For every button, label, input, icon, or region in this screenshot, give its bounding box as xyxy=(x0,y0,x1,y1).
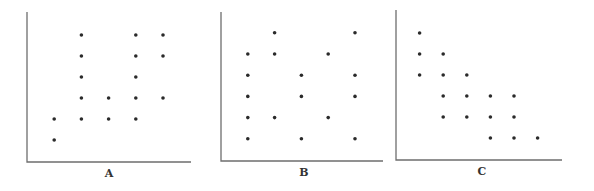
panel-c-label: C xyxy=(478,165,487,178)
panel-b-point-14 xyxy=(353,73,357,77)
panel-b-point-12 xyxy=(326,116,330,120)
panel-a: A xyxy=(27,12,191,180)
panel-a-point-10 xyxy=(134,54,138,58)
panel-a-label: A xyxy=(104,167,114,180)
panel-a-point-5 xyxy=(80,96,84,100)
panel-a-point-0 xyxy=(52,117,56,121)
panel-c-point-6 xyxy=(441,115,445,119)
panel-c-point-8 xyxy=(465,94,469,98)
panel-b-point-7 xyxy=(273,116,277,120)
panel-a-point-15 xyxy=(161,54,165,58)
panel-c-point-5 xyxy=(441,94,445,98)
panel-b-point-10 xyxy=(300,137,304,141)
panel-c-point-7 xyxy=(465,73,469,77)
panel-b-point-0 xyxy=(246,52,250,56)
panel-a-point-9 xyxy=(134,33,138,37)
panel-b: B xyxy=(221,12,383,179)
panel-c-point-10 xyxy=(489,94,493,98)
panel-b-point-1 xyxy=(246,73,250,77)
panel-c-point-15 xyxy=(512,136,516,140)
panel-b-point-4 xyxy=(246,137,250,141)
panel-c-point-11 xyxy=(489,115,493,119)
scatter-figure: A B C xyxy=(0,0,594,191)
panel-b-point-2 xyxy=(246,95,250,99)
panel-b-point-15 xyxy=(353,95,357,99)
panel-c-point-13 xyxy=(512,94,516,98)
panel-b-point-9 xyxy=(300,95,304,99)
panel-a-point-2 xyxy=(80,33,84,37)
panel-c-point-9 xyxy=(465,115,469,119)
panel-a-axes xyxy=(27,12,191,162)
panel-a-point-1 xyxy=(52,138,56,142)
panel-a-points xyxy=(52,33,164,142)
panel-a-point-3 xyxy=(80,54,84,58)
panel-c-points xyxy=(418,31,540,140)
panel-a-point-6 xyxy=(80,117,84,121)
panel-b-point-16 xyxy=(353,137,357,141)
panel-a-point-4 xyxy=(80,75,84,79)
panel-c-point-1 xyxy=(418,52,422,56)
panel-a-point-7 xyxy=(107,96,111,100)
panel-a-point-13 xyxy=(134,117,138,121)
panel-a-point-8 xyxy=(107,117,111,121)
panel-c: C xyxy=(396,10,562,178)
panel-c-point-3 xyxy=(441,52,445,56)
panel-a-point-14 xyxy=(161,33,165,37)
panel-b-label: B xyxy=(299,166,308,179)
panel-b-point-11 xyxy=(326,52,330,56)
panel-b-point-3 xyxy=(246,116,250,120)
panel-b-point-8 xyxy=(300,73,304,77)
panel-b-point-13 xyxy=(353,31,357,35)
panel-a-point-16 xyxy=(161,96,165,100)
panel-b-points xyxy=(246,31,357,141)
panel-c-point-12 xyxy=(489,136,493,140)
panel-c-point-0 xyxy=(418,31,422,35)
panel-a-point-11 xyxy=(134,75,138,79)
panel-c-point-2 xyxy=(418,73,422,77)
panel-c-point-14 xyxy=(512,115,516,119)
panel-b-point-5 xyxy=(273,31,277,35)
panel-c-point-4 xyxy=(441,73,445,77)
panel-c-point-16 xyxy=(536,136,540,140)
panel-a-point-12 xyxy=(134,96,138,100)
panel-b-point-6 xyxy=(273,52,277,56)
